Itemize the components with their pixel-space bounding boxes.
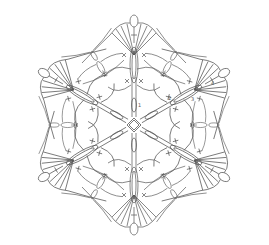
- round-label-4: 4: [211, 80, 214, 86]
- round-label-3: 3: [191, 96, 194, 102]
- round-label-2: 2: [168, 95, 171, 101]
- round-label-1: 1: [138, 102, 141, 108]
- crochet-snowflake-chart: 1 2 3 4: [0, 0, 269, 245]
- center-ring: [127, 118, 141, 132]
- snowflake-petals: [39, 28, 229, 222]
